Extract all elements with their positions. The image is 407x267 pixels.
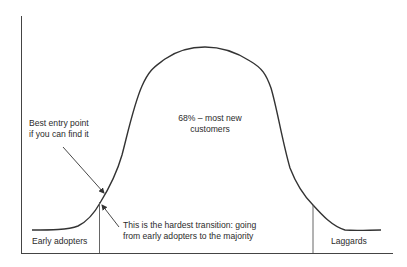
entry-point-annotation-line1: Best entry point — [29, 118, 89, 129]
entry-point-annotation-line2: if you can find it — [29, 129, 89, 140]
hardest-transition-annotation-line1: This is the hardest transition: going — [123, 220, 256, 231]
laggards-label: Laggards — [331, 236, 367, 247]
hardest-transition-arrow — [102, 205, 119, 227]
entry-point-annotation: Best entry point if you can find it — [29, 118, 89, 140]
majority-annotation-line2: customers — [160, 124, 260, 135]
hardest-transition-annotation: This is the hardest transition: going fr… — [123, 220, 256, 242]
majority-annotation: 68% – most new customers — [160, 113, 260, 135]
hardest-transition-annotation-line2: from early adopters to the majority — [123, 231, 256, 242]
majority-annotation-line1: 68% – most new — [160, 113, 260, 124]
early-adopters-label: Early adopters — [32, 236, 87, 247]
entry-point-arrow — [63, 147, 104, 193]
